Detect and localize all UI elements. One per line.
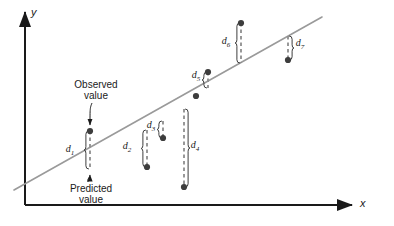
residual-label: d6 bbox=[222, 35, 231, 49]
axes-group: x y bbox=[25, 6, 366, 209]
residual-d3: d3 bbox=[147, 119, 166, 141]
observed-value-label-line1: Observed bbox=[74, 79, 117, 90]
predicted-value-label-line2: value bbox=[79, 194, 103, 205]
predicted-value-label-line1: Predicted bbox=[70, 183, 112, 194]
residual-brace bbox=[186, 109, 191, 187]
residual-label-subscript: 6 bbox=[227, 41, 231, 49]
residual-brace bbox=[157, 121, 162, 138]
residual-d4: d4 bbox=[181, 109, 200, 190]
residual-label: d1 bbox=[66, 143, 75, 157]
residual-brace bbox=[290, 36, 295, 60]
residual-brace bbox=[235, 23, 240, 63]
x-axis-label: x bbox=[359, 197, 366, 209]
y-axis-label: y bbox=[30, 6, 38, 18]
residual-label: d4 bbox=[191, 139, 200, 153]
residual-label-subscript: 1 bbox=[71, 149, 75, 157]
residual-d2: d2 bbox=[123, 130, 150, 170]
residual-label-subscript: 7 bbox=[301, 43, 305, 51]
observed-value-label-line2: value bbox=[84, 90, 108, 101]
residual-label-subscript: 4 bbox=[196, 145, 200, 153]
regression-line bbox=[14, 17, 322, 190]
on-line-point bbox=[193, 93, 199, 99]
residual-label: d5 bbox=[192, 69, 201, 83]
residual-label-subscript: 2 bbox=[128, 146, 132, 154]
figure-canvas: x y d1d2d3d4d5d6d7 Observed value Predic… bbox=[0, 0, 394, 226]
observed-value-arrow bbox=[90, 103, 92, 125]
residual-label-subscript: 5 bbox=[197, 75, 201, 83]
regression-residuals-figure: x y d1d2d3d4d5d6d7 Observed value Predic… bbox=[0, 0, 394, 226]
residual-brace bbox=[141, 130, 146, 167]
residual-d7: d7 bbox=[285, 36, 305, 63]
residual-label: d2 bbox=[123, 140, 132, 154]
residual-label: d7 bbox=[296, 37, 305, 51]
on-line-points-group bbox=[193, 93, 199, 99]
predicted-value-arrow bbox=[88, 175, 90, 182]
residual-label: d3 bbox=[147, 119, 156, 133]
residual-brace bbox=[202, 72, 207, 88]
residual-segments-group: d1d2d3d4d5d6d7 bbox=[66, 20, 305, 190]
annotation-observed-value: Observed value bbox=[74, 79, 117, 125]
annotation-predicted-value: Predicted value bbox=[70, 175, 112, 205]
residual-d6: d6 bbox=[222, 20, 244, 63]
residual-label-subscript: 3 bbox=[151, 125, 156, 133]
